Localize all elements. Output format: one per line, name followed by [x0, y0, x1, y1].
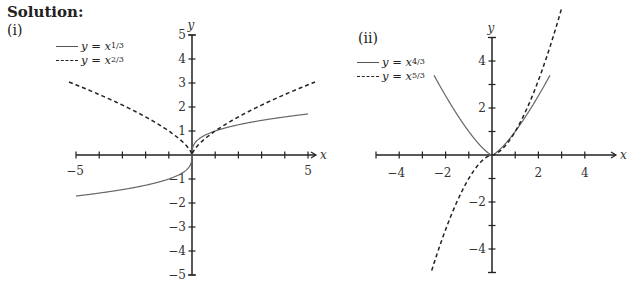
legend-text: y = x: [382, 55, 412, 69]
x-tick-label: 5: [304, 164, 312, 178]
x-tick-label: 4: [581, 166, 589, 180]
dashed-line-swatch-icon: [357, 76, 379, 77]
y-tick-label: −2: [468, 195, 486, 209]
legend-text: y = x: [382, 69, 412, 83]
legend-ii: y = x4/3 y = x5/3: [357, 55, 425, 83]
x-tick-label: 2: [535, 166, 543, 180]
legend-exponent: 4/3: [412, 55, 425, 69]
legend-text: y = x: [81, 53, 111, 67]
y-tick-label: −5: [168, 268, 186, 282]
y-tick-label: 1: [178, 124, 186, 138]
y-tick-label: 4: [478, 54, 486, 68]
legend-item-four-thirds: y = x4/3: [357, 55, 425, 69]
y-tick-label: 4: [178, 52, 186, 66]
x-axis-label: x: [320, 148, 327, 162]
legend-exponent: 5/3: [412, 69, 425, 83]
solid-line-swatch-icon: [56, 46, 78, 47]
legend-item-cube-root: y = x1/3: [56, 39, 124, 53]
y-tick-label: −3: [168, 220, 186, 234]
x-tick-label: −5: [66, 164, 84, 178]
x-axis-label: x: [620, 148, 627, 162]
legend-i: y = x1/3 y = x2/3: [56, 39, 124, 67]
chart-2: −4−22442−2−4xy: [376, 8, 627, 272]
y-tick-label: −4: [468, 242, 486, 256]
legend-exponent: 2/3: [111, 53, 124, 67]
y-tick-label: 3: [178, 76, 186, 90]
y-tick-label: −1: [168, 172, 186, 186]
x-tick-label: −4: [387, 166, 405, 180]
y-axis-label: y: [187, 18, 195, 32]
legend-exponent: 1/3: [111, 39, 124, 53]
y-tick-label: 2: [178, 100, 186, 114]
y-tick-label: 2: [478, 101, 486, 115]
legend-item-two-thirds: y = x2/3: [56, 53, 124, 67]
legend-text: y = x: [81, 39, 111, 53]
curve-5-over-3: [432, 8, 562, 270]
y-tick-label: 5: [178, 28, 186, 42]
y-axis-label: y: [487, 21, 495, 35]
y-tick-label: −4: [168, 244, 186, 258]
x-tick-label: −2: [434, 166, 452, 180]
y-tick-label: −2: [168, 196, 186, 210]
legend-item-five-thirds: y = x5/3: [357, 69, 425, 83]
dashed-line-swatch-icon: [56, 60, 78, 61]
solid-line-swatch-icon: [357, 62, 379, 63]
